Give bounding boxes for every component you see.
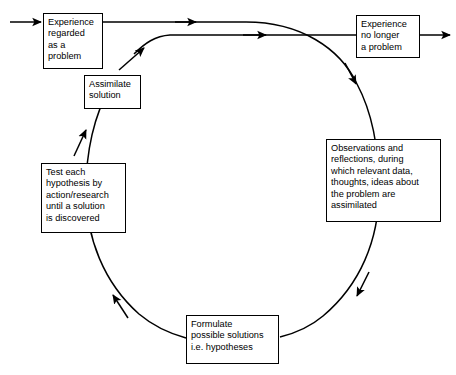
node-observations-and-reflections: Observations and reflections, during whi…	[326, 139, 441, 222]
node-assimilate-solution: Assimilate solution	[84, 75, 141, 109]
node-experience-regarded-as-a-problem: Experience regarded as a problem	[43, 13, 103, 69]
arrowhead-right-lower	[357, 272, 369, 296]
node-experience-no-longer-a-problem: Experience no longer a problem	[356, 15, 420, 58]
arrowhead-right-upper	[345, 63, 356, 84]
arrowhead-left-upper	[74, 130, 86, 156]
arrowhead-top-left	[119, 48, 144, 70]
arrowhead-left-lower	[113, 295, 128, 318]
node-test-each-hypothesis: Test each hypothesis by action/research …	[41, 163, 126, 233]
edge-problem-to-cycle	[103, 22, 357, 84]
node-formulate-possible-solutions: Formulate possible solutions i.e. hypoth…	[186, 315, 279, 364]
cycle-diagram: Experience regarded as a problem Assimil…	[0, 0, 456, 375]
